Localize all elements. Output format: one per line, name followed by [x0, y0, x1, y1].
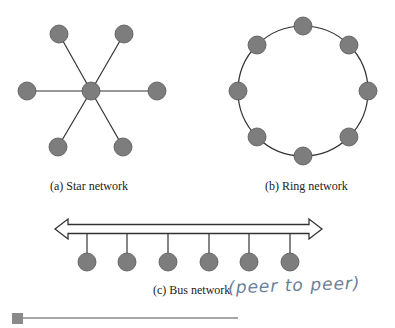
bus-node — [159, 253, 177, 271]
bus-backbone-arrow — [55, 219, 322, 239]
ring-node — [340, 128, 358, 146]
ring-node — [248, 128, 266, 146]
star-network — [18, 25, 166, 156]
bus-node — [118, 253, 136, 271]
star-link — [91, 34, 124, 91]
ring-node — [229, 82, 247, 100]
bus-node — [78, 253, 96, 271]
star-node — [18, 82, 36, 100]
star-link — [59, 34, 91, 91]
star-link — [58, 91, 91, 147]
bus-network-label: (c) Bus network — [153, 283, 230, 298]
bus-network — [55, 219, 322, 271]
star-node — [49, 138, 67, 156]
ring-network-label: (b) Ring network — [265, 179, 348, 194]
ring-node — [294, 147, 312, 165]
footer-bar — [12, 313, 238, 324]
ring-node — [294, 17, 312, 35]
ring-node — [340, 36, 358, 54]
bus-node — [240, 253, 258, 271]
ring-node — [248, 36, 266, 54]
bus-node — [281, 253, 299, 271]
footer-square-marker — [12, 313, 23, 324]
star-node — [50, 25, 68, 43]
star-node — [114, 138, 132, 156]
star-network-label: (a) Star network — [50, 179, 128, 194]
star-node — [148, 82, 166, 100]
ring-node — [359, 82, 377, 100]
star-node — [115, 25, 133, 43]
bus-node — [200, 253, 218, 271]
ring-network — [229, 17, 377, 165]
star-link — [91, 91, 123, 147]
star-hub-node — [82, 82, 100, 100]
